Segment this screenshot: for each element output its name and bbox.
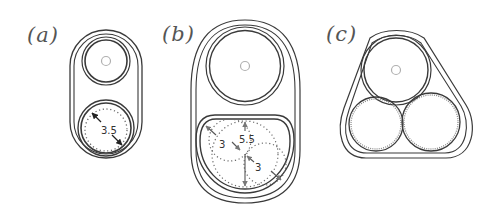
figure-canvas: (a) (b) (c) 3.5	[0, 0, 496, 213]
panel-c-diagram	[340, 31, 472, 159]
dimension-label-b-1: 3	[219, 139, 225, 150]
panel-b-diagram	[191, 20, 300, 203]
diagram-svg: 3.5 3 5.5 3	[0, 0, 496, 213]
dimension-label-b-2: 5.5	[239, 134, 255, 145]
dimension-label-a: 3.5	[101, 125, 117, 136]
panel-a-diagram	[70, 30, 142, 158]
dimension-label-b-3: 3	[255, 162, 261, 173]
